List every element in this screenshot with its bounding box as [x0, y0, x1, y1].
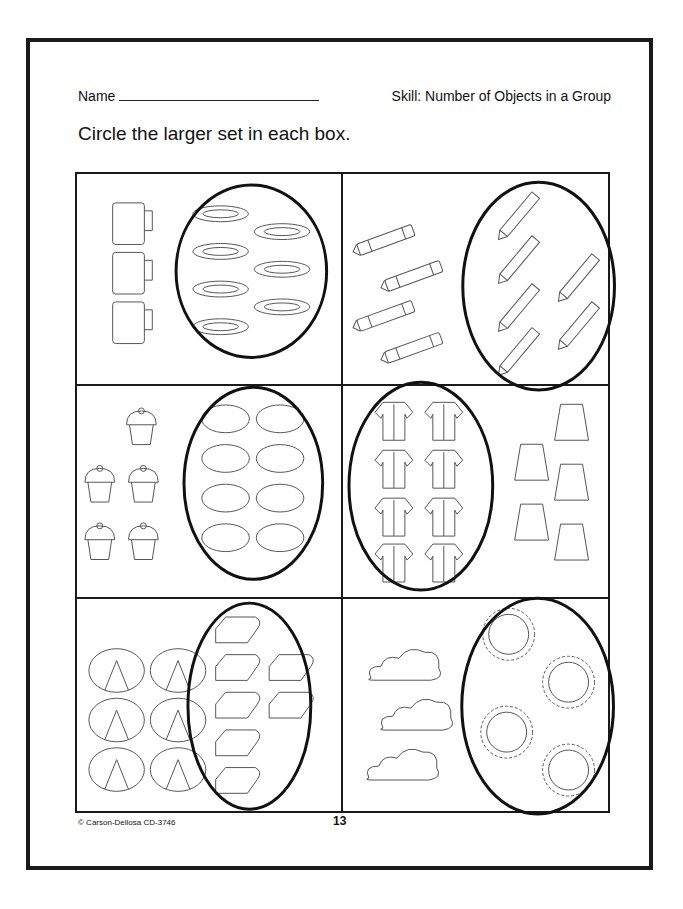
plate-icon — [193, 206, 310, 335]
sun-icon — [480, 608, 594, 796]
name-field[interactable]: Name — [78, 88, 319, 104]
answer-circle — [188, 603, 311, 809]
name-blank-line[interactable] — [119, 88, 319, 101]
answer-circle — [184, 387, 323, 579]
box-clouds-suns[interactable] — [343, 599, 609, 811]
box-crayons-pencils[interactable] — [343, 174, 609, 386]
box-mugs-plates[interactable] — [77, 174, 343, 386]
page-number: 13 — [333, 814, 346, 828]
pencil-icon — [494, 192, 599, 379]
box-cupcakes-pies[interactable] — [77, 386, 343, 598]
name-label: Name — [78, 88, 115, 104]
answer-circle — [348, 383, 492, 591]
mug-icon — [113, 203, 153, 344]
copyright: © Carson-Dellosa CD-3746 — [78, 818, 176, 827]
exercise-grid — [75, 172, 610, 813]
answer-circle — [461, 598, 613, 814]
box-pretzels-bread[interactable] — [77, 599, 343, 811]
answer-circle — [462, 182, 614, 390]
shirt-icon — [374, 403, 462, 583]
cloud-icon — [366, 649, 452, 780]
skill-label: Skill: Number of Objects in a Group — [392, 88, 611, 104]
instructions: Circle the larger set in each box. — [78, 123, 350, 145]
box-shirts-skirts[interactable] — [343, 386, 609, 598]
pie-icon — [202, 405, 304, 552]
skirt-icon — [514, 405, 588, 561]
answer-circle — [176, 185, 327, 357]
crayon-icon — [350, 224, 442, 365]
cupcake-icon — [85, 408, 158, 560]
